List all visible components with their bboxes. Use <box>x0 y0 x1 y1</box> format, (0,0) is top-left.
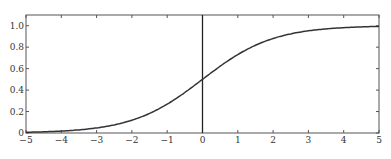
x-tick-label: −3 <box>90 135 104 145</box>
y-tick-label: 0.8 <box>10 42 25 52</box>
x-tick-label: −2 <box>125 135 138 145</box>
y-tick-label: 0.2 <box>10 107 24 117</box>
x-tick-label: 0 <box>200 135 206 145</box>
sigmoid-chart: −5−4−3−2−101234500.20.40.60.81.0 <box>0 0 391 159</box>
x-tick-label: 3 <box>306 135 312 145</box>
y-tick-label: 0.4 <box>10 85 25 95</box>
x-tick-label: −1 <box>161 135 174 145</box>
x-tick-label: 2 <box>270 135 276 145</box>
y-tick-label: 0.6 <box>10 64 25 74</box>
x-tick-label: 5 <box>376 135 382 145</box>
y-tick-label: 1.0 <box>10 21 25 31</box>
y-tick-label: 0 <box>18 128 24 138</box>
x-tick-label: 1 <box>235 135 241 145</box>
x-tick-label: −4 <box>55 135 69 145</box>
x-tick-label: 4 <box>341 135 347 145</box>
